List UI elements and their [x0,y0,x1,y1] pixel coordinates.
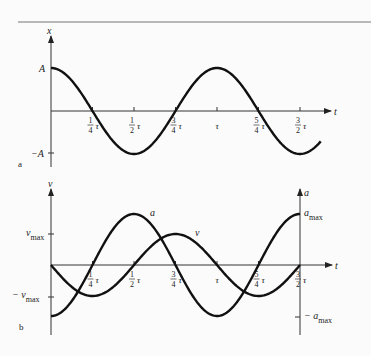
tick-label: 32τ [295,270,307,289]
tick-label-amax: amax [304,207,323,222]
svg-text:2: 2 [130,126,134,135]
tick-label: τ [215,121,219,131]
axis-label-v: v [48,178,53,189]
axis-label-a: a [304,187,309,198]
tick-label: τ [215,275,219,285]
axis-label-t: t [334,106,337,117]
figure: x t A −A a 14τ12τ34ττ54τ32τ v a t vmax −… [0,0,371,356]
svg-text:2: 2 [296,280,300,289]
svg-text:3: 3 [296,116,300,125]
svg-text:τ: τ [137,121,141,131]
curve-label-a: a [150,207,155,218]
svg-text:4: 4 [255,126,259,135]
svg-text:3: 3 [296,270,300,279]
svg-text:τ: τ [137,275,141,285]
svg-text:4: 4 [89,280,93,289]
tick-label: 12τ [129,116,141,135]
svg-text:τ: τ [96,275,100,285]
axis-label-x: x [46,25,52,36]
panel-letter-b: b [19,322,24,332]
svg-text:2: 2 [130,280,134,289]
svg-text:1: 1 [130,270,134,279]
svg-text:2: 2 [296,126,300,135]
svg-text:τ: τ [179,121,183,131]
svg-text:3: 3 [172,270,176,279]
svg-text:4: 4 [172,126,176,135]
curve-label-v: v [195,227,200,238]
tick-label: 12τ [129,270,141,289]
svg-text:τ: τ [215,121,219,131]
svg-text:4: 4 [89,126,93,135]
svg-text:1: 1 [130,116,134,125]
tick-label-vmax: vmax [26,227,44,242]
panel-letter-a: a [18,159,22,169]
svg-text:τ: τ [262,275,266,285]
tick-label: 34τ [171,116,183,135]
panel-b: v a t vmax − vmax amax − amax b a v 14τ1… [12,178,338,335]
tick-label-minus-vmax: − vmax [12,289,39,304]
tick-label-A: A [38,63,46,74]
tick-label-minus-amax: − amax [304,310,332,325]
svg-text:τ: τ [303,121,307,131]
panel-a: x t A −A a 14τ12τ34ττ54τ32τ [18,25,337,169]
svg-text:4: 4 [172,280,176,289]
svg-text:1: 1 [89,116,93,125]
svg-text:5: 5 [255,116,259,125]
svg-text:τ: τ [215,275,219,285]
tick-label-minus-A: −A [31,148,45,159]
tick-label: 32τ [295,116,307,135]
svg-text:4: 4 [255,280,259,289]
axis-label-t-b: t [335,260,338,271]
svg-text:τ: τ [303,275,307,285]
